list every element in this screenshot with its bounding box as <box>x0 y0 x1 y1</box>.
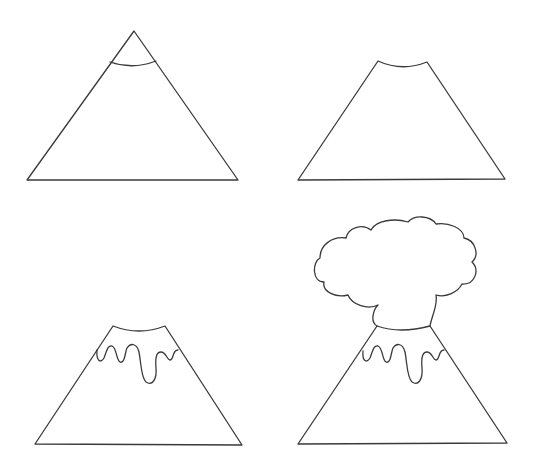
step-2-trapezoid <box>298 61 505 180</box>
step-1-triangle <box>27 31 238 180</box>
step-3-volcano-with-lava <box>35 326 242 445</box>
smoke-cloud <box>314 217 476 326</box>
step-4-erupting-volcano <box>298 217 507 444</box>
volcano-steps-drawing <box>0 0 545 462</box>
step-3-lava-drips <box>97 345 178 384</box>
step-4-lava-drips <box>363 345 444 384</box>
step-1-guide-arc <box>110 61 156 66</box>
